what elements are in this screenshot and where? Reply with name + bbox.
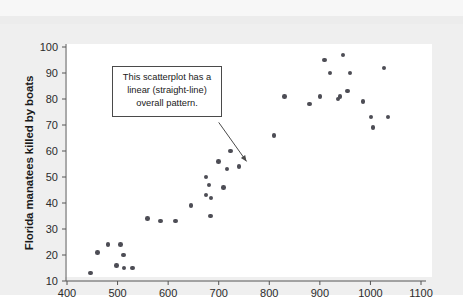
y-axis-tick-label: 10 bbox=[24, 275, 58, 287]
x-axis-tick-label: 600 bbox=[159, 287, 177, 299]
x-axis-tick-label: 900 bbox=[311, 287, 329, 299]
y-axis-tick-label: 80 bbox=[24, 93, 58, 105]
scatter-point bbox=[361, 99, 366, 104]
y-axis-tick-label: 90 bbox=[24, 67, 58, 79]
scatter-point bbox=[228, 149, 233, 154]
x-axis-tick-label: 800 bbox=[260, 287, 278, 299]
scatter-point bbox=[106, 242, 111, 247]
scatter-point bbox=[371, 125, 376, 130]
scatter-point bbox=[118, 242, 123, 247]
annotation-line-3: overall pattern. bbox=[118, 97, 216, 110]
scatter-point bbox=[221, 185, 226, 190]
scatter-point bbox=[282, 94, 287, 99]
scatter-point bbox=[114, 263, 119, 268]
scatter-point bbox=[216, 159, 221, 164]
scatter-point bbox=[208, 214, 213, 219]
scatter-point bbox=[95, 250, 100, 255]
y-axis-tick-label: 20 bbox=[24, 249, 58, 261]
y-axis-tick-label: 30 bbox=[24, 223, 58, 235]
y-axis-tick-label: 50 bbox=[24, 171, 58, 183]
y-axis-title: Florida manatees killed by boats bbox=[23, 53, 35, 273]
scatter-point bbox=[173, 219, 178, 224]
annotation-line-1: This scatterplot has a bbox=[118, 71, 216, 84]
y-axis-tick-label: 40 bbox=[24, 197, 58, 209]
scatter-point bbox=[318, 94, 323, 99]
x-axis-tick-label: 1000 bbox=[358, 287, 382, 299]
scatter-point bbox=[145, 216, 150, 221]
scatter-point bbox=[272, 133, 277, 138]
annotation-line-2: linear (straight-line) bbox=[118, 84, 216, 97]
x-axis-tick-label: 700 bbox=[210, 287, 228, 299]
scatter-point bbox=[322, 58, 327, 63]
scatter-point bbox=[237, 164, 242, 169]
scatter-point bbox=[189, 203, 194, 208]
y-axis-tick-label: 60 bbox=[24, 145, 58, 157]
scatter-point bbox=[338, 94, 343, 99]
y-axis-tick-label: 100 bbox=[24, 41, 58, 53]
x-axis-tick-label: 400 bbox=[58, 287, 76, 299]
x-axis-tick-label: 1100 bbox=[409, 287, 433, 299]
x-axis-tick-label: 500 bbox=[108, 287, 126, 299]
annotation-callout: This scatterplot has a linear (straight-… bbox=[112, 66, 222, 117]
y-axis-tick-label: 70 bbox=[24, 119, 58, 131]
